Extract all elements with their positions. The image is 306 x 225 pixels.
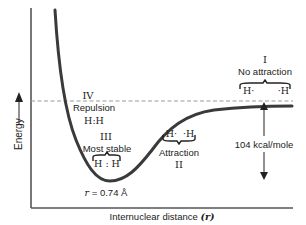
region-iii-formula: H : H <box>94 158 120 169</box>
region-ii-label: Attraction <box>159 147 199 158</box>
region-i-formula-left: H· <box>243 85 254 96</box>
y-axis-label-group: Energy <box>13 92 24 150</box>
x-axis-label: Internuclear distance (r) <box>110 211 215 222</box>
region-ii-formula: H· ·H <box>166 128 195 139</box>
arrow-down-head-icon <box>260 172 268 180</box>
region-iv-formula: H:H <box>84 115 104 126</box>
region-i-label: No attraction <box>238 66 292 77</box>
bond-energy-label: 104 kcal/mole <box>235 139 294 150</box>
energy-arrow-head-icon <box>15 92 23 102</box>
region-iv-numeral: IV <box>82 90 94 101</box>
region-i-formula-right: ·H <box>278 85 289 96</box>
y-axis-label: Energy <box>13 118 24 150</box>
equilibrium-distance: r = 0.74 Å <box>85 187 129 198</box>
region-iii-numeral: III <box>100 131 112 142</box>
region-iv-label: Repulsion <box>73 102 115 113</box>
potential-energy-diagram: Energy IV Repulsion H:H III Most stable … <box>0 0 306 225</box>
region-ii-numeral: II <box>175 159 183 170</box>
region-i-numeral: I <box>263 54 267 65</box>
